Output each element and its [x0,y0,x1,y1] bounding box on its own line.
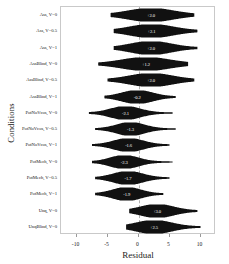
y-tick-label: Unq, V=0 [0,207,60,212]
x-tick-label: 10 [197,241,203,247]
violin-plot-figure: Conditions Ass, V=0Ass, V=0.5Ass, V=1Ass… [0,0,229,264]
y-tick-label: PotMech, V=0 [0,158,60,163]
y-axis-tick-labels: Ass, V=0Ass, V=0.5Ass, V=1AssBlind, V=0A… [0,6,60,234]
x-tick-label: -10 [72,241,79,247]
y-tick-label: PotNoVcos, V=0 [0,109,60,114]
x-tick-mark [169,234,170,237]
x-tick-mark [76,234,77,237]
x-axis-ticks: -10-50510 [60,6,215,256]
x-tick-mark [200,234,201,237]
x-tick-label: 5 [167,241,170,247]
x-tick-mark [138,234,139,237]
y-tick-label: Ass, V=0.5 [0,28,60,33]
y-tick-label: Ass, V=0 [0,12,60,17]
x-tick-label: 0 [136,241,139,247]
y-tick-label: PotMech, V=1 [0,191,60,196]
y-tick-label: AssBlind, V=1 [0,93,60,98]
y-tick-label: PotNoVcos, V=1 [0,142,60,147]
x-tick-mark [107,234,108,237]
x-axis-title: Residual [60,250,216,260]
x-tick-label: -5 [104,241,109,247]
y-tick-label: Ass, V=1 [0,44,60,49]
y-tick-label: AssBlind, V=0.5 [0,77,60,82]
y-tick-label: UnqBlind, V=0 [0,223,60,228]
y-tick-label: PotMech, V=0.5 [0,175,60,180]
y-tick-label: AssBlind, V=0 [0,61,60,66]
y-tick-label: PotNoVcos, V=0.5 [0,126,60,131]
